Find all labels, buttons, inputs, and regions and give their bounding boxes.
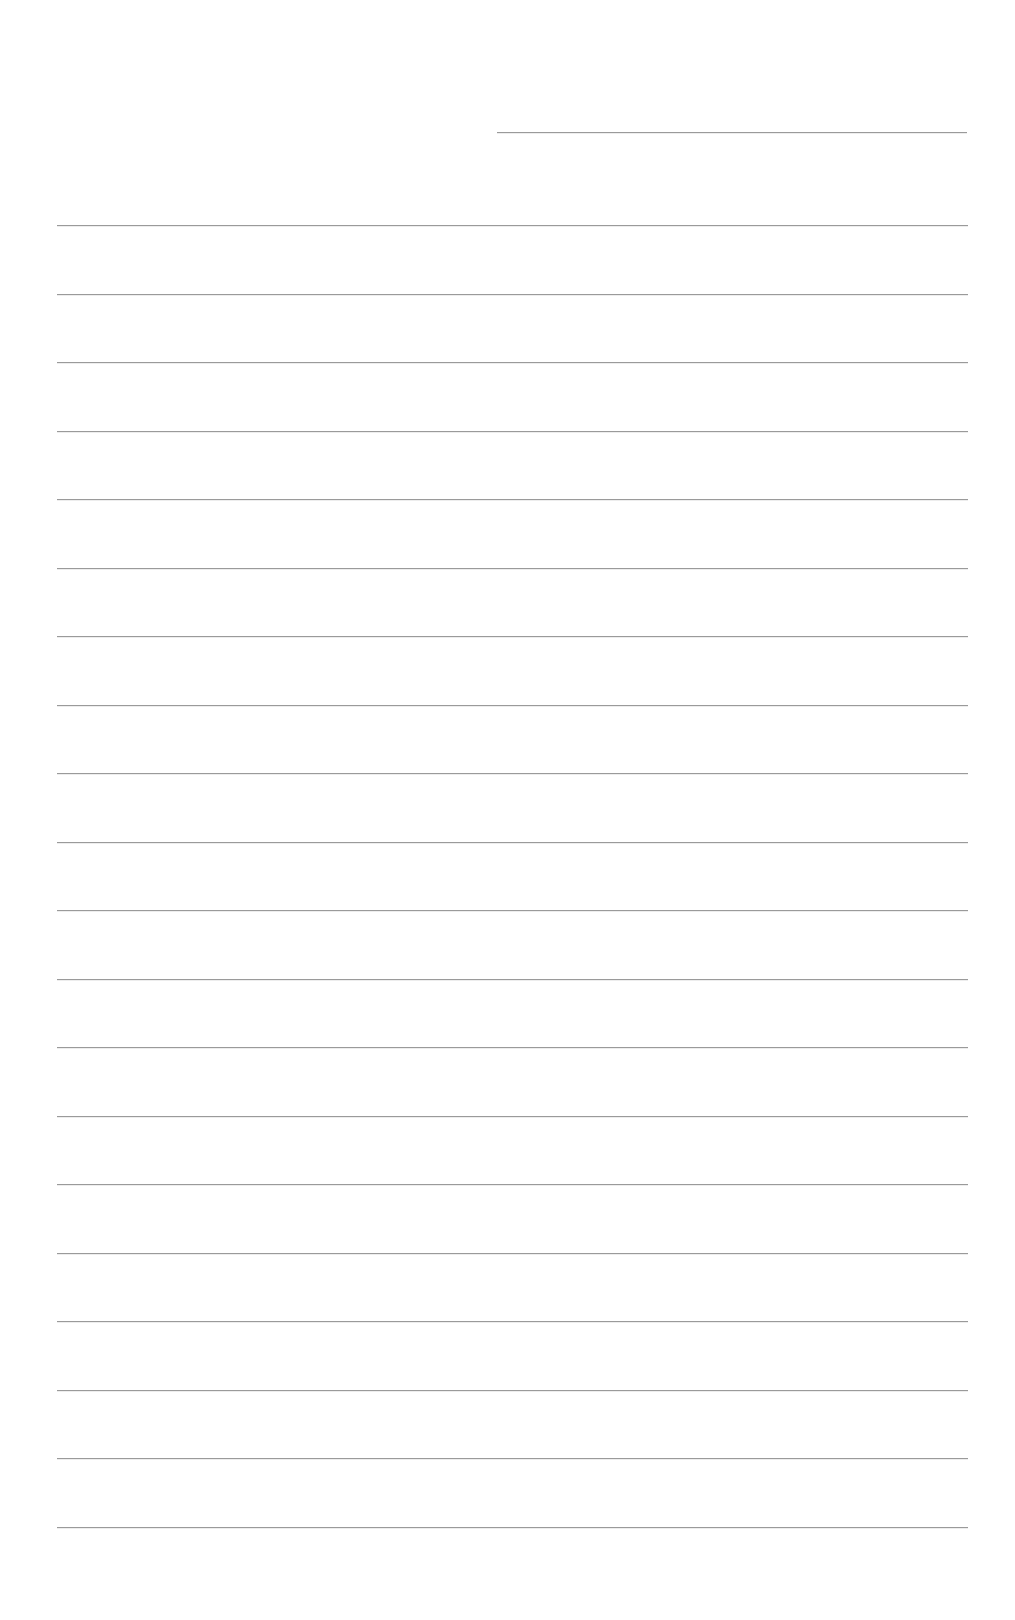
- writing-line: [57, 225, 968, 226]
- header-line: [497, 132, 967, 133]
- writing-line: [57, 979, 968, 980]
- writing-line: [57, 1116, 968, 1117]
- writing-line: [57, 1047, 968, 1048]
- writing-line: [57, 705, 968, 706]
- writing-line: [57, 910, 968, 911]
- writing-line: [57, 636, 968, 637]
- writing-line: [57, 294, 968, 295]
- writing-line: [57, 1527, 968, 1528]
- writing-line: [57, 1390, 968, 1391]
- writing-line: [57, 362, 968, 363]
- writing-line: [57, 1458, 968, 1459]
- writing-line: [57, 1184, 968, 1185]
- writing-line: [57, 773, 968, 774]
- writing-line: [57, 842, 968, 843]
- writing-line: [57, 1253, 968, 1254]
- writing-line: [57, 499, 968, 500]
- writing-line: [57, 431, 968, 432]
- writing-line: [57, 1321, 968, 1322]
- writing-line: [57, 568, 968, 569]
- lined-paper-page: [0, 0, 1015, 1620]
